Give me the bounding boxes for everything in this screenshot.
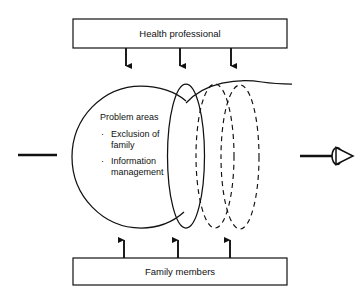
solid-narrow-ellipse	[168, 84, 205, 228]
dashed-ellipse-right	[221, 85, 259, 229]
family-members-box: Family members	[73, 258, 287, 285]
trailing-curve	[186, 81, 292, 103]
bullet-marker-icon: ·	[101, 129, 104, 139]
bullet-marker-icon: ·	[101, 156, 104, 166]
problem-areas-heading: Problem areas	[100, 112, 159, 122]
upward-arrow-group	[124, 240, 230, 258]
family-members-label: Family members	[145, 266, 215, 277]
health-professional-label: Health professional	[139, 28, 220, 39]
process-diagram: Health professional Problem areas · Excl…	[0, 0, 360, 294]
bullet-2-line-1: Information	[111, 156, 156, 166]
diagram-canvas: Health professional Problem areas · Excl…	[0, 0, 360, 294]
right-arrow-with-lens	[300, 148, 353, 165]
arrow-head-icon	[336, 148, 353, 165]
bullet-2-line-2: management	[111, 167, 164, 177]
downward-arrow-group	[126, 48, 231, 66]
bullet-1-line-2: family	[111, 140, 135, 150]
dashed-ellipse-middle	[196, 84, 234, 228]
problem-areas-text-block: Problem areas · Exclusion of family · In…	[100, 112, 164, 177]
health-professional-box: Health professional	[73, 19, 287, 48]
bullet-1-line-1: Exclusion of	[111, 129, 160, 139]
